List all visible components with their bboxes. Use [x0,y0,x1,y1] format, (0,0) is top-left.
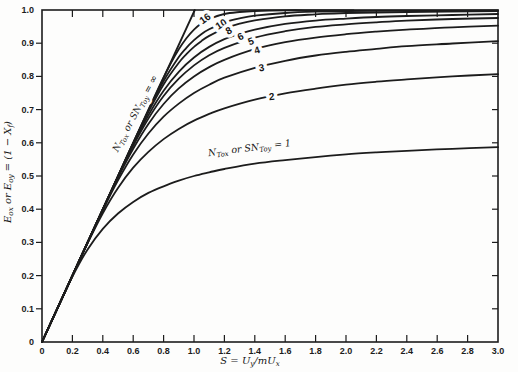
curve-n-5 [42,18,498,342]
chart-canvas: 00.20.40.60.81.01.21.41.61.82.02.22.42.6… [0,0,518,372]
curve-label-2: 2 [268,91,275,103]
y-tick-label: 0.7 [21,105,34,115]
y-tick-label: 0.9 [21,38,34,48]
y-tick-label: 0.5 [21,171,34,181]
x-tick-label: 0.6 [127,346,140,356]
y-tick-label: 0.8 [21,71,34,81]
curve-n-10 [42,10,498,342]
y-tick-label: 0.6 [21,138,34,148]
curve-n-1 [42,147,498,342]
y-tick-label: 0.2 [21,271,34,281]
x-tick-label: 2.0 [340,346,353,356]
x-tick-label: 1.6 [279,346,292,356]
curve-n-8 [42,11,498,342]
x-tick-label: 0 [39,346,44,356]
y-tick-label: 0 [29,337,34,347]
x-tick-label: 2.4 [401,346,414,356]
x-tick-label: 2.8 [461,346,474,356]
x-tick-label: 0.4 [97,346,110,356]
tick-labels-group: 00.20.40.60.81.01.21.41.61.82.02.22.42.6… [21,5,504,356]
x-tick-label: 1.0 [188,346,201,356]
y-axis-title: Eox or Eoy = (1 − Xf) [2,121,15,224]
x-tick-label: 1.8 [309,346,322,356]
x-tick-label: 2.2 [370,346,383,356]
y-tick-label: 0.3 [21,237,34,247]
curves-group [42,10,498,342]
x-tick-label: 2.6 [431,346,444,356]
x-tick-label: 0.2 [66,346,79,356]
curve-label-3: 3 [258,62,266,74]
curve-label-4: 4 [253,44,262,56]
colburn-efficiency-chart: 00.20.40.60.81.01.21.41.61.82.02.22.42.6… [0,0,518,372]
x-tick-label: 0.8 [157,346,170,356]
y-tick-label: 1.0 [21,5,34,15]
x-axis-title: S = Uy/mUx [220,355,279,368]
y-tick-label: 0.4 [21,204,34,214]
curve-n-16 [42,10,354,342]
plot-frame-group [42,10,498,342]
plot-border [42,10,498,342]
curve-n-4 [42,26,498,342]
annotation-ntu-one: NTox or SNToy = 1 [206,137,291,160]
x-tick-label: 3.0 [492,346,505,356]
ticks-group [36,10,498,342]
y-tick-label: 0.1 [21,304,34,314]
curve-n-2 [42,74,498,342]
